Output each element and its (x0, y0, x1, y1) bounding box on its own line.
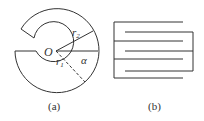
caption-b: (b) (148, 100, 161, 113)
figure-canvas: O r2 r1 α (a) (b) (0, 0, 204, 121)
center-label-o: O (44, 45, 53, 59)
r1-label: r1 (56, 55, 64, 69)
figure-a (15, 9, 99, 93)
alpha-label: α (81, 54, 87, 66)
figure-b (114, 22, 193, 78)
caption-a: (a) (48, 100, 61, 113)
r2-label: r2 (72, 26, 80, 40)
